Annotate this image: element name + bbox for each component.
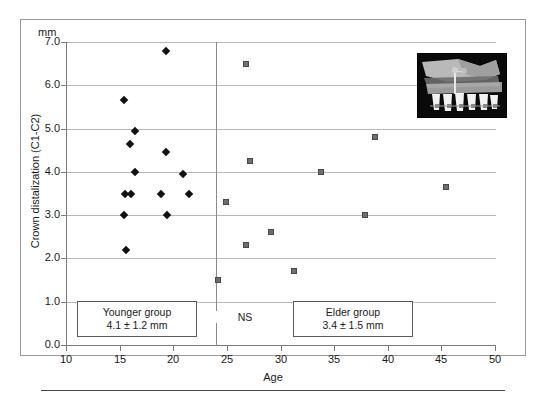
y-axis-tick [61, 42, 67, 43]
x-axis-tick [66, 346, 67, 351]
x-axis-tick-label: 10 [51, 353, 81, 365]
data-point-elder [243, 242, 249, 248]
data-point-elder [372, 134, 378, 140]
x-axis-tick [495, 346, 496, 351]
figure-bottom-rule [41, 390, 505, 391]
data-point-elder [243, 61, 249, 67]
x-axis-tick-label: 40 [373, 353, 403, 365]
younger-group-annotation: Younger group 4.1 ± 1.2 mm [77, 301, 197, 337]
x-axis-tick-label: 30 [266, 353, 296, 365]
elder-group-value: 3.4 ± 1.5 mm [294, 319, 412, 332]
data-point-elder [318, 169, 324, 175]
grid-line-y [66, 215, 496, 216]
x-axis-tick [120, 346, 121, 351]
grid-line-y [66, 258, 496, 259]
y-axis-tick-label: 1.0 [20, 296, 60, 307]
y-axis-tick [61, 258, 67, 259]
ns-label: NS [197, 311, 293, 323]
lateral-cephalogram-inset-image [417, 53, 507, 118]
y-axis-line [66, 42, 67, 346]
x-axis-tick [334, 346, 335, 351]
elder-group-annotation: Elder group 3.4 ± 1.5 mm [293, 301, 413, 337]
x-axis-tick-label: 45 [426, 353, 456, 365]
x-axis-tick [227, 346, 228, 351]
data-point-elder [268, 229, 274, 235]
x-axis-title: Age [0, 371, 546, 383]
y-axis-tick-label: 0.0 [20, 339, 60, 350]
elder-group-title: Elder group [326, 306, 380, 318]
ns-comparison-arrow: NS [197, 310, 293, 330]
tooth-movement-diagram-icon [418, 54, 506, 117]
y-axis-tick-label: 7.0 [20, 36, 60, 47]
x-axis-tick-label: 35 [319, 353, 349, 365]
younger-group-title: Younger group [103, 306, 172, 318]
y-axis-tick [61, 85, 67, 86]
x-axis-tick-label: 20 [158, 353, 188, 365]
data-point-elder [291, 268, 297, 274]
younger-group-value: 4.1 ± 1.2 mm [78, 319, 196, 332]
y-axis-tick [61, 302, 67, 303]
y-axis-title: Crown distalization (C1-C2) [29, 76, 41, 286]
data-point-elder [215, 277, 221, 283]
y-axis-tick [61, 215, 67, 216]
x-axis-tick-label: 50 [480, 353, 510, 365]
data-point-elder [362, 212, 368, 218]
data-point-elder [443, 184, 449, 190]
x-axis-tick [388, 346, 389, 351]
data-point-elder [223, 199, 229, 205]
x-axis-tick [441, 346, 442, 351]
data-point-elder [247, 158, 253, 164]
x-axis-tick [281, 346, 282, 351]
x-axis-tick [173, 346, 174, 351]
x-axis-tick-label: 25 [212, 353, 242, 365]
group-divider-line [216, 42, 217, 346]
y-axis-tick [61, 172, 67, 173]
y-axis-tick [61, 129, 67, 130]
grid-line-y [66, 42, 496, 43]
x-axis-tick-label: 15 [105, 353, 135, 365]
